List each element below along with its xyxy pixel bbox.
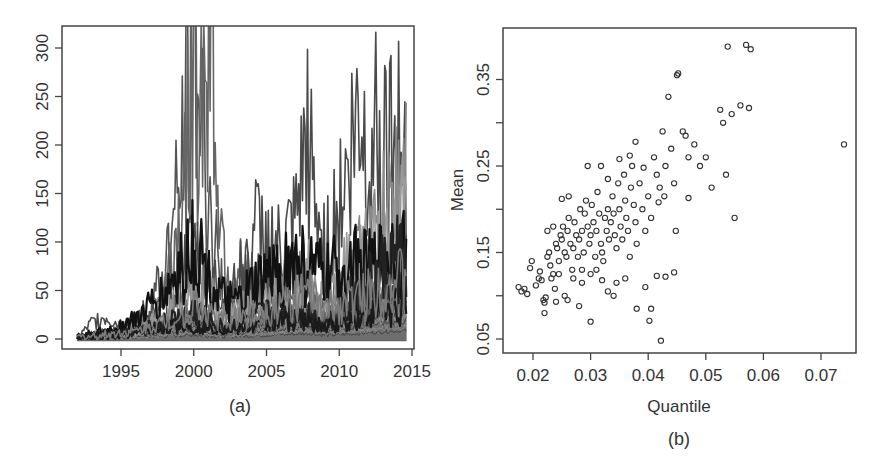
scatter-point <box>566 194 571 199</box>
scatter-point <box>633 139 638 144</box>
scatter-point <box>628 185 633 190</box>
scatter-point <box>618 224 623 229</box>
scatter-point <box>662 194 667 199</box>
scatter-point <box>572 220 577 225</box>
scatter-point <box>605 289 610 294</box>
scatter-point <box>660 129 665 134</box>
scatter-point <box>562 293 567 298</box>
scatter-point <box>654 273 659 278</box>
scatter-point <box>581 250 586 255</box>
scatter-point <box>589 202 594 207</box>
scatter-point <box>697 163 702 168</box>
y-tick-label: 0.05 <box>474 322 493 355</box>
scatter-point <box>597 211 602 216</box>
scatter-point <box>605 176 610 181</box>
scatter-point <box>553 299 558 304</box>
x-axis-a: 19952000200520102015 <box>102 349 431 381</box>
scatter-point <box>657 185 662 190</box>
scatter-point <box>723 172 728 177</box>
scatter-point <box>588 233 593 238</box>
scatter-point <box>627 153 632 158</box>
scatter-point <box>725 44 730 49</box>
scatter-point <box>627 254 632 259</box>
scatter-point <box>748 47 753 52</box>
y-tick-label: 200 <box>33 131 52 159</box>
scatter-point <box>585 163 590 168</box>
x-tick-label: 0.04 <box>632 366 665 385</box>
y-axis-b: 0.050.150.250.35 <box>474 63 503 356</box>
scatter-point <box>585 224 590 229</box>
scatter-point <box>588 319 593 324</box>
x-tick-label: 2015 <box>393 362 431 381</box>
y-tick-label: 0.15 <box>474 236 493 269</box>
scatter-point <box>525 291 530 296</box>
x-tick-label: 0.02 <box>516 366 549 385</box>
y-tick-label: 0.25 <box>474 149 493 182</box>
scatter-point <box>617 157 622 162</box>
panel-label-b: (b) <box>668 429 690 449</box>
x-axis-title: Quantile <box>647 397 710 416</box>
scatter-point <box>578 207 583 212</box>
scatter-point <box>610 194 615 199</box>
scatter-point <box>588 272 593 277</box>
scatter-point <box>611 211 616 216</box>
scatter-point <box>560 224 565 229</box>
scatter-point <box>548 263 553 268</box>
scatter-point <box>537 269 542 274</box>
scatter-point <box>634 241 639 246</box>
scatter-point <box>637 181 642 186</box>
scatter-point <box>672 181 677 186</box>
scatter-point <box>579 228 584 233</box>
x-tick-label: 0.07 <box>804 366 837 385</box>
scatter-point <box>630 163 635 168</box>
scatter-point <box>631 202 636 207</box>
x-axis-b: 0.020.030.040.050.060.07 <box>516 353 837 385</box>
x-tick-label: 0.03 <box>574 366 607 385</box>
scatter-point <box>598 163 603 168</box>
panel-b-scatter-chart: 0.050.150.250.35 0.020.030.040.050.060.0… <box>448 28 856 449</box>
scatter-point <box>841 142 846 147</box>
scatter-point <box>686 155 691 160</box>
scatter-point <box>575 254 580 259</box>
scatter-point <box>542 311 547 316</box>
scatter-point <box>600 250 605 255</box>
scatter-points <box>516 42 847 343</box>
scatter-point <box>528 266 533 271</box>
scatter-point <box>624 215 629 220</box>
scatter-point <box>623 198 628 203</box>
scatter-point <box>579 267 584 272</box>
scatter-point <box>683 133 688 138</box>
scatter-point <box>533 283 538 288</box>
scatter-point <box>565 228 570 233</box>
y-tick-label: 0 <box>33 334 52 343</box>
scatter-point <box>577 237 582 242</box>
scatter-point <box>732 215 737 220</box>
scatter-point <box>612 233 617 238</box>
scatter-point <box>738 103 743 108</box>
scatter-point <box>656 200 661 205</box>
y-tick-label: 150 <box>33 179 52 207</box>
scatter-point <box>709 185 714 190</box>
scatter-point <box>647 318 652 323</box>
y-tick-label: 250 <box>33 82 52 110</box>
scatter-point <box>545 228 550 233</box>
scatter-point <box>633 220 638 225</box>
scatter-point <box>559 196 564 201</box>
scatter-point <box>598 241 603 246</box>
scatter-point <box>649 215 654 220</box>
scatter-point <box>583 198 588 203</box>
scatter-point <box>556 259 561 264</box>
scatter-point <box>634 306 639 311</box>
scatter-point <box>614 246 619 251</box>
scatter-point <box>602 215 607 220</box>
scatter-point <box>672 270 677 275</box>
scatter-point <box>669 146 674 151</box>
scatter-point <box>556 272 561 277</box>
scatter-point <box>744 42 749 47</box>
scatter-point <box>666 94 671 99</box>
scatter-point <box>673 228 678 233</box>
x-tick-label: 1995 <box>102 362 140 381</box>
scatter-point <box>649 306 654 311</box>
scatter-point <box>595 189 600 194</box>
x-tick-label: 2000 <box>175 362 213 381</box>
